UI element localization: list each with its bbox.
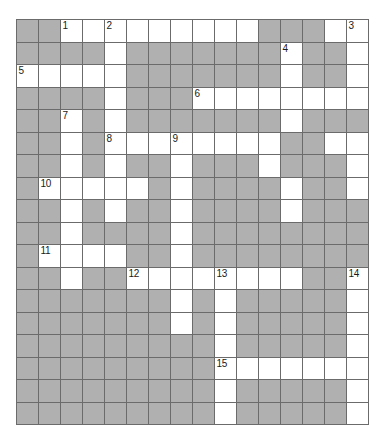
crossword-open-cell[interactable] (259, 87, 281, 110)
crossword-open-cell[interactable] (215, 312, 237, 335)
crossword-open-cell[interactable]: 3 (347, 20, 369, 43)
crossword-open-cell[interactable]: 12 (127, 267, 149, 290)
crossword-open-cell[interactable]: 8 (105, 132, 127, 155)
crossword-open-cell[interactable] (171, 222, 193, 245)
crossword-open-cell[interactable] (347, 132, 369, 155)
crossword-open-cell[interactable] (281, 110, 303, 133)
crossword-open-cell[interactable]: 2 (105, 20, 127, 43)
crossword-open-cell[interactable] (193, 20, 215, 43)
crossword-open-cell[interactable] (281, 177, 303, 200)
crossword-open-cell[interactable] (149, 132, 171, 155)
crossword-open-cell[interactable] (61, 65, 83, 88)
crossword-open-cell[interactable] (171, 290, 193, 313)
crossword-open-cell[interactable] (83, 177, 105, 200)
crossword-open-cell[interactable] (105, 42, 127, 65)
crossword-open-cell[interactable] (171, 177, 193, 200)
crossword-open-cell[interactable] (259, 155, 281, 178)
crossword-open-cell[interactable]: 15 (215, 357, 237, 380)
crossword-open-cell[interactable] (281, 200, 303, 223)
crossword-open-cell[interactable] (347, 357, 369, 380)
crossword-open-cell[interactable] (127, 177, 149, 200)
crossword-open-cell[interactable] (215, 290, 237, 313)
crossword-open-cell[interactable] (347, 177, 369, 200)
crossword-open-cell[interactable] (281, 87, 303, 110)
crossword-open-cell[interactable] (347, 42, 369, 65)
crossword-open-cell[interactable] (61, 132, 83, 155)
crossword-open-cell[interactable] (61, 245, 83, 268)
crossword-open-cell[interactable] (259, 357, 281, 380)
crossword-open-cell[interactable] (105, 177, 127, 200)
crossword-open-cell[interactable] (83, 245, 105, 268)
crossword-open-cell[interactable] (215, 20, 237, 43)
crossword-open-cell[interactable] (215, 380, 237, 403)
crossword-open-cell[interactable] (325, 357, 347, 380)
crossword-open-cell[interactable]: 1 (61, 20, 83, 43)
crossword-open-cell[interactable] (127, 132, 149, 155)
crossword-open-cell[interactable] (171, 200, 193, 223)
crossword-open-cell[interactable] (105, 65, 127, 88)
crossword-open-cell[interactable]: 9 (171, 132, 193, 155)
crossword-open-cell[interactable]: 6 (193, 87, 215, 110)
crossword-block-cell (215, 42, 237, 65)
crossword-open-cell[interactable] (193, 132, 215, 155)
crossword-open-cell[interactable] (171, 155, 193, 178)
crossword-open-cell[interactable] (347, 290, 369, 313)
crossword-open-cell[interactable] (259, 267, 281, 290)
crossword-open-cell[interactable]: 4 (281, 42, 303, 65)
crossword-open-cell[interactable] (61, 200, 83, 223)
crossword-open-cell[interactable] (347, 335, 369, 358)
crossword-open-cell[interactable] (325, 87, 347, 110)
crossword-open-cell[interactable] (193, 267, 215, 290)
crossword-open-cell[interactable] (281, 65, 303, 88)
crossword-open-cell[interactable]: 10 (39, 177, 61, 200)
crossword-open-cell[interactable] (215, 402, 237, 425)
crossword-open-cell[interactable] (215, 335, 237, 358)
crossword-block-cell (325, 245, 347, 268)
crossword-open-cell[interactable] (39, 65, 61, 88)
crossword-open-cell[interactable] (105, 110, 127, 133)
crossword-open-cell[interactable] (237, 87, 259, 110)
crossword-open-cell[interactable] (237, 20, 259, 43)
crossword-open-cell[interactable] (171, 245, 193, 268)
crossword-open-cell[interactable]: 7 (61, 110, 83, 133)
crossword-open-cell[interactable] (281, 267, 303, 290)
crossword-open-cell[interactable] (215, 132, 237, 155)
crossword-open-cell[interactable] (237, 132, 259, 155)
crossword-open-cell[interactable] (61, 222, 83, 245)
crossword-open-cell[interactable] (105, 87, 127, 110)
crossword-open-cell[interactable] (171, 312, 193, 335)
crossword-open-cell[interactable] (347, 65, 369, 88)
crossword-open-cell[interactable] (303, 87, 325, 110)
crossword-open-cell[interactable]: 14 (347, 267, 369, 290)
crossword-open-cell[interactable] (61, 267, 83, 290)
crossword-open-cell[interactable] (171, 267, 193, 290)
crossword-open-cell[interactable] (281, 357, 303, 380)
crossword-open-cell[interactable]: 11 (39, 245, 61, 268)
crossword-open-cell[interactable] (105, 155, 127, 178)
crossword-open-cell[interactable] (259, 132, 281, 155)
crossword-open-cell[interactable] (61, 155, 83, 178)
crossword-open-cell[interactable] (237, 357, 259, 380)
crossword-open-cell[interactable]: 5 (17, 65, 39, 88)
crossword-open-cell[interactable] (325, 20, 347, 43)
crossword-open-cell[interactable] (171, 20, 193, 43)
crossword-open-cell[interactable] (127, 20, 149, 43)
crossword-open-cell[interactable] (347, 312, 369, 335)
crossword-open-cell[interactable] (237, 267, 259, 290)
crossword-open-cell[interactable] (347, 402, 369, 425)
crossword-open-cell[interactable] (325, 132, 347, 155)
crossword-open-cell[interactable] (105, 245, 127, 268)
crossword-open-cell[interactable]: 13 (215, 267, 237, 290)
crossword-open-cell[interactable] (83, 20, 105, 43)
crossword-open-cell[interactable] (303, 357, 325, 380)
crossword-open-cell[interactable] (149, 20, 171, 43)
crossword-open-cell[interactable] (347, 380, 369, 403)
crossword-open-cell[interactable] (347, 155, 369, 178)
crossword-open-cell[interactable] (347, 87, 369, 110)
crossword-open-cell[interactable] (149, 267, 171, 290)
crossword-open-cell[interactable] (83, 65, 105, 88)
crossword-block-cell (171, 65, 193, 88)
crossword-open-cell[interactable] (61, 177, 83, 200)
crossword-open-cell[interactable] (215, 87, 237, 110)
crossword-open-cell[interactable] (105, 200, 127, 223)
